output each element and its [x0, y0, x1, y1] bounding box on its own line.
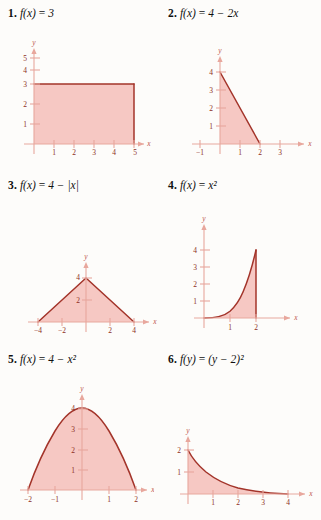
y-tick-label-1-1: 1: [23, 120, 27, 129]
problem-1-expression: 3: [48, 7, 54, 19]
y-tick-label-1-2: 2: [23, 100, 27, 109]
x-tick-label-5-3: 1: [107, 495, 111, 504]
y-tick-label-5-1: 1: [71, 466, 75, 475]
x-axis-label-4: x: [293, 313, 298, 322]
x-tick-label-1-5: 5: [133, 148, 137, 156]
problem-panel-1: 1. f(x) = 3: [0, 0, 160, 172]
problem-3-graph: −4 −2 2 4 2 4 x y: [16, 250, 158, 340]
problem-1-heading: 1. f(x) = 3: [8, 6, 54, 20]
problem-4-heading: 4. f(x) = x²: [168, 178, 217, 192]
y-axis-label-1: y: [31, 38, 36, 47]
y-axis-arrow-4: [201, 224, 206, 230]
problem-5-expression: 4 − x²: [48, 353, 76, 365]
problem-3-function: f(x): [20, 179, 36, 191]
y-axis-label-4: y: [201, 214, 206, 223]
problem-2-expression: 4 − 2x: [208, 7, 238, 19]
x-tick-label-2-1: −1: [196, 148, 204, 156]
y-axis-label-6: y: [185, 426, 190, 435]
problem-3-expression: 4 − |x|: [48, 179, 79, 191]
y-tick-label-4-3: 3: [193, 263, 197, 272]
y-tick-label-1-3: 3: [23, 80, 27, 89]
problem-panel-2: 2. f(x) = 4 − 2x: [160, 0, 321, 172]
x-tick-label-2-2: 1: [238, 148, 242, 156]
problem-panel-3: 3. f(x) = 4 − |x|: [0, 172, 160, 346]
shaded-region-1: [34, 84, 134, 144]
y-tick-label-6-1: 1: [177, 468, 181, 477]
x-axis-arrow-6: [299, 491, 305, 496]
problem-4-graph: 1 2 1 2 3 4 x y: [178, 212, 318, 332]
x-axis-label-3: x: [152, 317, 157, 326]
x-tick-label-6-1: 1: [211, 498, 215, 507]
x-tick-label-1-1: 1: [52, 148, 56, 156]
y-tick-label-2-3: 3: [209, 86, 213, 95]
x-tick-label-6-4: 4: [286, 498, 290, 507]
x-tick-label-3-3: 2: [108, 326, 112, 335]
problem-6-number: 6.: [168, 353, 177, 365]
x-axis-arrow-4: [284, 315, 290, 320]
problem-2-graph: −1 1 2 3 1 2 3 4 x y: [178, 36, 318, 156]
x-tick-label-4-2: 2: [254, 323, 258, 332]
y-axis-label-5: y: [79, 384, 84, 393]
problem-3-number: 3.: [8, 179, 17, 191]
y-axis-label-2: y: [217, 46, 222, 55]
x-tick-label-4-1: 1: [228, 323, 232, 332]
problem-5-heading: 5. f(x) = 4 − x²: [8, 352, 76, 366]
problem-6-equals: =: [199, 353, 206, 365]
problem-3-equals: =: [39, 179, 46, 191]
problem-2-equals: =: [199, 7, 206, 19]
problem-6-graph: 1 2 3 4 1 2 x y: [172, 424, 317, 514]
y-tick-label-1-5: 5: [23, 54, 27, 63]
x-axis-label-2: x: [307, 139, 312, 148]
x-tick-label-5-4: 2: [134, 495, 138, 504]
problem-5-equals: =: [39, 353, 46, 365]
x-tick-label-3-4: 4: [132, 326, 136, 335]
problem-5-function: f(x): [20, 353, 36, 365]
y-tick-label-3-2: 4: [76, 273, 80, 282]
x-axis-label-6: x: [308, 489, 313, 498]
x-tick-label-5-1: −2: [24, 495, 32, 504]
x-tick-label-1-3: 3: [92, 148, 96, 156]
problem-4-function: f(x): [180, 179, 196, 191]
problem-1-equals: =: [39, 7, 46, 19]
problem-5-number: 5.: [8, 353, 17, 365]
x-tick-label-3-1: −4: [34, 326, 42, 335]
y-axis-label-3: y: [83, 252, 88, 261]
problem-grid: 1. f(x) = 3: [0, 0, 321, 520]
x-axis-label-1: x: [146, 139, 151, 148]
y-tick-label-2-2: 2: [209, 104, 213, 113]
x-axis-arrow-5: [141, 487, 147, 492]
x-tick-label-1-4: 4: [112, 148, 116, 156]
problem-6-expression: (y − 2)²: [208, 353, 243, 365]
problem-6-function: f(y): [180, 353, 196, 365]
y-tick-label-2-4: 4: [209, 68, 213, 77]
problem-panel-4: 4. f(x) = x²: [160, 172, 321, 346]
y-tick-label-5-2: 2: [71, 446, 75, 455]
x-axis-arrow-3: [143, 319, 149, 324]
x-tick-label-3-2: −2: [58, 326, 66, 335]
y-tick-label-4-1: 1: [193, 297, 197, 306]
x-axis-arrow-1: [138, 141, 144, 146]
y-tick-label-5-4: 4: [71, 404, 75, 413]
y-tick-label-4-4: 4: [193, 246, 197, 255]
problem-2-function: f(x): [180, 7, 196, 19]
problem-2-heading: 2. f(x) = 4 − 2x: [168, 6, 238, 20]
problem-panel-5: 5. f(x) = 4 − x²: [0, 346, 160, 520]
x-axis-label-5: x: [150, 485, 154, 494]
x-tick-label-6-2: 2: [236, 498, 240, 507]
problem-6-heading: 6. f(y) = (y − 2)²: [168, 352, 244, 366]
worksheet-page: 1. f(x) = 3: [0, 0, 321, 520]
problem-4-expression: x²: [208, 179, 217, 191]
problem-3-heading: 3. f(x) = 4 − |x|: [8, 178, 79, 192]
x-tick-label-5-2: −1: [51, 495, 59, 504]
x-tick-label-6-3: 3: [261, 498, 265, 507]
shaded-region-4: [204, 250, 256, 318]
x-axis-arrow-2: [298, 141, 304, 146]
problem-4-number: 4.: [168, 179, 177, 191]
y-tick-label-5-3: 3: [71, 425, 75, 434]
y-tick-label-3-1: 2: [76, 296, 80, 305]
x-tick-label-1-2: 2: [72, 148, 76, 156]
problem-2-number: 2.: [168, 7, 177, 19]
y-axis-arrow-3: [83, 262, 88, 268]
problem-panel-6: 6. f(y) = (y − 2)²: [160, 346, 321, 520]
y-axis-arrow-1: [31, 48, 36, 54]
